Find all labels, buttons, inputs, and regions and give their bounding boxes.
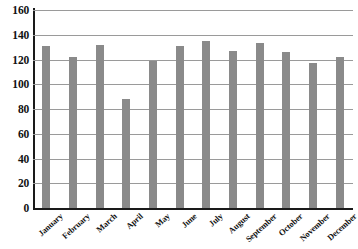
- gridline-40: [33, 159, 353, 160]
- x-tick-label-march: March: [94, 211, 118, 234]
- gridline-20: [33, 183, 353, 184]
- bar-chart: 020406080100120140160 JanuaryFebruaryMar…: [0, 0, 358, 249]
- plot-area: [33, 10, 353, 208]
- x-tick-label-june: June: [179, 211, 198, 230]
- bar-september: [256, 43, 264, 208]
- y-tick-label-0: 0: [23, 202, 29, 214]
- gridline-160: [33, 10, 353, 11]
- gridline-100: [33, 84, 353, 85]
- y-tick-label-120: 120: [12, 54, 29, 66]
- x-tick-label-february: February: [60, 211, 92, 241]
- y-tick-label-80: 80: [18, 103, 29, 115]
- gridline-120: [33, 60, 353, 61]
- gridline-60: [33, 134, 353, 135]
- bar-february: [69, 57, 77, 208]
- y-tick-label-100: 100: [12, 78, 29, 90]
- bar-january: [42, 46, 50, 208]
- bar-march: [96, 45, 104, 208]
- bar-may: [149, 61, 157, 208]
- y-axis-tick-labels: 020406080100120140160: [0, 10, 29, 208]
- bar-october: [282, 52, 290, 208]
- gridline-80: [33, 109, 353, 110]
- y-tick-label-20: 20: [18, 177, 29, 189]
- y-tick-label-160: 160: [12, 4, 29, 16]
- y-tick-label-60: 60: [18, 128, 29, 140]
- bar-april: [122, 99, 130, 208]
- bar-december: [336, 57, 344, 208]
- x-tick-label-july: July: [207, 211, 225, 229]
- gridline-140: [33, 35, 353, 36]
- bar-august: [229, 51, 237, 208]
- y-tick-label-140: 140: [12, 29, 29, 41]
- bar-june: [176, 46, 184, 208]
- bar-november: [309, 63, 317, 208]
- y-tick-label-40: 40: [18, 153, 29, 165]
- x-tick-label-april: April: [124, 211, 145, 231]
- bar-july: [202, 41, 210, 208]
- x-axis-tick-labels: JanuaryFebruaryMarchAprilMayJuneJulyAugu…: [33, 209, 353, 249]
- x-tick-label-may: May: [153, 211, 172, 229]
